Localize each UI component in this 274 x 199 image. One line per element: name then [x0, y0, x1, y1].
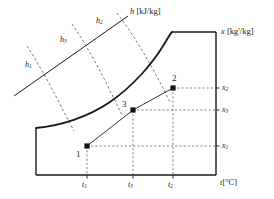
humidity-axis-unit: [kg'/kg]	[227, 26, 254, 36]
state-point-marker-1	[84, 143, 89, 148]
enthalpy-axis-line	[14, 16, 128, 96]
tick-label-t1-sub: 1	[84, 183, 87, 189]
enthalpy-label-h1: h1	[25, 61, 32, 69]
state-point-label-3: 3	[122, 100, 127, 109]
tick-label-t2: t2	[168, 181, 173, 189]
state-point-label-1: 1	[76, 150, 81, 159]
enthalpy-label-h2: h2	[96, 17, 103, 25]
tick-label-x2: x2	[222, 84, 228, 92]
enthalpy-axis-unit: [kJ/kg]	[136, 6, 160, 16]
enthalpy-label-h3: h3	[60, 36, 67, 44]
tick-label-x3-sub: 3	[226, 108, 229, 114]
tick-label-x1: x1	[222, 142, 228, 150]
enthalpy-axis-title: h [kJ/kg]	[130, 7, 160, 16]
tick-label-x1-sub: 1	[226, 144, 229, 150]
tick-label-x2-sub: 2	[226, 86, 229, 92]
saturation-curve	[36, 32, 172, 128]
tick-label-x3: x3	[222, 106, 228, 114]
axis-ticks-group	[87, 88, 220, 179]
enthalpy-label-h3-sub: 3	[64, 38, 67, 44]
tick-label-t3: t3	[128, 181, 133, 189]
hx-diagram: h [kJ/kg] x [kg'/kg] t[°C] h1 h3 h2 t1 t…	[0, 0, 274, 199]
enthalpy-label-h2-sub: 2	[100, 19, 103, 25]
guide-lines-group	[87, 88, 216, 175]
state-point-marker-2	[170, 85, 175, 90]
tick-label-t1: t1	[82, 181, 87, 189]
enthalpy-label-h1-sub: 1	[29, 63, 32, 69]
state-point-marker-3	[130, 107, 135, 112]
tick-label-t2-sub: 2	[170, 183, 173, 189]
process-line	[87, 88, 173, 146]
temperature-axis-unit: [°C]	[222, 177, 237, 187]
state-point-label-2: 2	[172, 74, 177, 83]
temperature-axis-title: t[°C]	[220, 178, 237, 187]
tick-label-t3-sub: 3	[130, 183, 133, 189]
enthalpy-line-h2	[117, 13, 170, 102]
humidity-axis-title: x [kg'/kg]	[221, 27, 253, 36]
